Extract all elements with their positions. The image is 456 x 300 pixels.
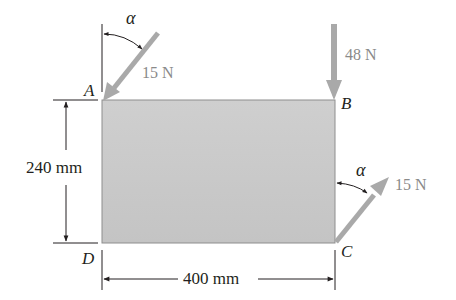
point-label-C: C xyxy=(341,242,353,261)
force-label-A: 15 N xyxy=(142,64,174,81)
angle-arc-C xyxy=(337,183,367,193)
plate-force-diagram: 240 mm 400 mm 15 N α 48 N 15 N α A B xyxy=(0,0,456,300)
point-label-B: B xyxy=(341,94,352,113)
angle-arc-A xyxy=(104,34,142,49)
force-label-C: 15 N xyxy=(395,176,427,193)
angle-label-A: α xyxy=(126,8,136,28)
force-arrow-C xyxy=(336,177,389,242)
force-label-B: 48 N xyxy=(345,46,377,63)
height-label: 240 mm xyxy=(26,158,82,177)
angle-label-C: α xyxy=(356,160,366,180)
rectangular-plate xyxy=(102,100,335,243)
width-label: 400 mm xyxy=(183,269,239,288)
force-arrow-B xyxy=(326,24,342,100)
point-label-D: D xyxy=(81,249,95,268)
point-label-A: A xyxy=(83,81,95,100)
diagram-svg: 240 mm 400 mm 15 N α 48 N 15 N α A B xyxy=(0,0,456,300)
